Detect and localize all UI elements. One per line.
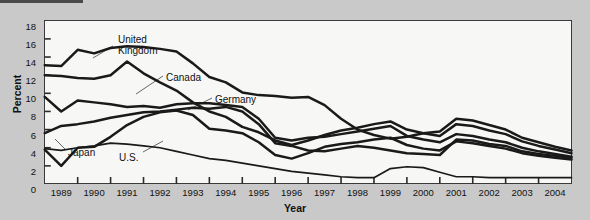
y-tick-label-10: 10 — [14, 94, 36, 103]
x-tick-marks — [78, 177, 539, 184]
series-annotation-japan: Japan — [68, 147, 95, 158]
x-tick-label-1990: 1990 — [77, 187, 111, 198]
y-tick-label-4: 4 — [14, 149, 36, 158]
y-tick-label-16: 16 — [14, 40, 36, 49]
x-tick-label-1994: 1994 — [209, 187, 243, 198]
series-annotation-germany: Germany — [215, 94, 256, 105]
series-annotation-us: U.S. — [119, 152, 138, 163]
x-tick-label-2001: 2001 — [439, 187, 473, 198]
y-tick-label-0: 0 — [14, 185, 36, 194]
y-tick-label-8: 8 — [14, 112, 36, 121]
x-tick-label-2000: 2000 — [406, 187, 440, 198]
y-tick-label-2: 2 — [14, 167, 36, 176]
chart-figure: Percent Year 024681012141618 19891990199… — [0, 6, 590, 220]
x-tick-label-1998: 1998 — [341, 187, 375, 198]
y-tick-label-12: 12 — [14, 76, 36, 85]
leader-line-japan — [55, 139, 66, 150]
y-tick-label-6: 6 — [14, 131, 36, 140]
x-tick-label-1989: 1989 — [44, 187, 78, 198]
series-line-united-kingdom — [45, 46, 572, 150]
x-tick-label-2002: 2002 — [472, 187, 506, 198]
x-tick-label-2004: 2004 — [538, 187, 572, 198]
y-tick-label-14: 14 — [14, 58, 36, 67]
leader-line-canada — [136, 76, 163, 94]
x-tick-label-1999: 1999 — [373, 187, 407, 198]
x-tick-label-1997: 1997 — [308, 187, 342, 198]
series-annotation-united-kingdom: United Kingdom — [118, 34, 157, 56]
x-tick-label-1996: 1996 — [275, 187, 309, 198]
series-annotation-canada: Canada — [166, 72, 201, 83]
x-tick-label-1993: 1993 — [176, 187, 210, 198]
header-rule — [0, 0, 83, 3]
x-tick-label-1992: 1992 — [143, 187, 177, 198]
x-tick-label-2003: 2003 — [505, 187, 539, 198]
y-tick-label-18: 18 — [14, 22, 36, 31]
x-tick-label-1991: 1991 — [110, 187, 144, 198]
x-tick-label-1995: 1995 — [242, 187, 276, 198]
